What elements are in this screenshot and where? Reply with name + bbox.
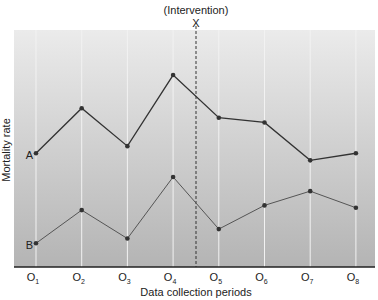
data-point	[79, 106, 84, 111]
data-point	[171, 175, 176, 180]
data-point	[125, 144, 130, 149]
intervention-label: (Intervention)	[164, 4, 229, 16]
plot-background	[14, 30, 375, 267]
x-axis-title: Data collection periods	[140, 286, 252, 298]
x-tick-o2: O2	[72, 271, 85, 285]
data-point	[125, 236, 130, 241]
data-point	[34, 151, 39, 156]
y-axis-title: Mortality rate	[0, 118, 12, 182]
data-point	[217, 115, 222, 120]
data-point	[217, 227, 222, 232]
data-point	[171, 73, 176, 78]
data-point	[308, 158, 313, 163]
x-tick-o6: O6	[255, 271, 268, 285]
series-label-b: B	[26, 239, 33, 251]
data-point	[308, 189, 313, 194]
x-tick-o1: O1	[27, 271, 40, 285]
data-point	[262, 120, 267, 125]
x-tick-o7: O7	[301, 271, 314, 285]
intervention-marker: X	[192, 17, 200, 29]
x-tick-o5: O5	[210, 271, 223, 285]
x-axis-tick-labels: O1O2O3O4O5O6O7O8	[27, 271, 359, 285]
series-label-a: A	[26, 149, 34, 161]
x-tick-o3: O3	[118, 271, 131, 285]
data-point	[79, 208, 84, 213]
data-point	[354, 151, 359, 156]
mortality-rate-chart: (Intervention) X AB O1O2O3O4O5O6O7O8 Dat…	[0, 0, 378, 300]
data-point	[354, 205, 359, 210]
data-point	[262, 203, 267, 208]
x-tick-o8: O8	[347, 271, 360, 285]
data-point	[34, 241, 39, 246]
x-tick-o4: O4	[164, 271, 177, 285]
